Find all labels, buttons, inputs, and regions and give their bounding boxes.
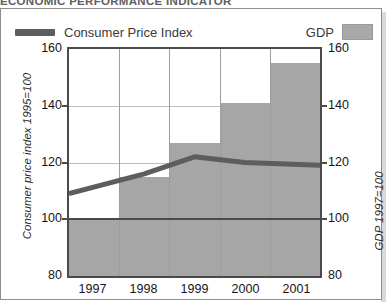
y-axis-ticks-left: 16014012010080 bbox=[26, 0, 62, 304]
y-tick-label-left-100: 100 bbox=[41, 211, 62, 225]
y-tick-label-right-120: 120 bbox=[328, 155, 349, 169]
x-axis-ticks: 19971998199920002001 bbox=[67, 282, 322, 302]
x-tick-label-1997: 1997 bbox=[67, 282, 118, 302]
x-tick-label-1999: 1999 bbox=[169, 282, 220, 302]
y-tick-label-right-80: 80 bbox=[328, 268, 342, 282]
plot-area bbox=[67, 47, 322, 278]
y-axis-title-right: GDP 1997=100 bbox=[373, 121, 385, 301]
y-tick-label-right-160: 160 bbox=[328, 41, 349, 55]
y-tick-mark-left-100 bbox=[62, 218, 68, 220]
cpi-line-series bbox=[69, 49, 320, 276]
y-tick-label-left-120: 120 bbox=[41, 155, 62, 169]
y-tick-label-left-160: 160 bbox=[41, 41, 62, 55]
x-tick-label-1998: 1998 bbox=[118, 282, 169, 302]
x-tick-label-2000: 2000 bbox=[220, 282, 271, 302]
y-tick-mark-right-100 bbox=[321, 218, 327, 220]
y-tick-label-left-140: 140 bbox=[41, 98, 62, 112]
y-axis-ticks-right: 16014012010080 bbox=[328, 0, 364, 304]
y-tick-mark-right-140 bbox=[321, 105, 327, 107]
y-tick-label-right-140: 140 bbox=[328, 98, 349, 112]
legend-label-consumer-price-index: Consumer Price Index bbox=[64, 25, 193, 40]
y-tick-label-left-80: 80 bbox=[48, 268, 62, 282]
y-tick-mark-left-140 bbox=[62, 105, 68, 107]
x-tick-label-2001: 2001 bbox=[271, 282, 322, 302]
y-tick-label-right-100: 100 bbox=[328, 211, 349, 225]
y-tick-mark-left-120 bbox=[62, 162, 68, 164]
y-tick-mark-right-120 bbox=[321, 162, 327, 164]
